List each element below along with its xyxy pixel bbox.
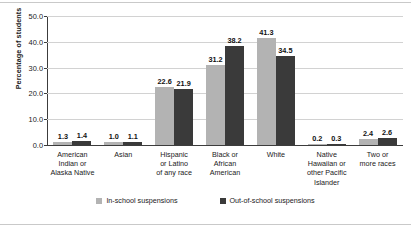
bar-pair: 2.42.6 <box>352 16 403 145</box>
x-axis-category-label: Hispanicor Latinoof any race <box>149 150 200 178</box>
category-label-line: Hispanic <box>149 150 200 159</box>
bar-pair: 1.31.4 <box>47 16 98 145</box>
bar-chart-figure: Percentage of students 0.010.020.030.040… <box>0 0 411 227</box>
bar-pair: 41.334.5 <box>250 16 301 145</box>
y-axis-tick-label: 40.0 <box>29 37 43 46</box>
x-axis-category-label: White <box>250 150 301 159</box>
bar[interactable]: 34.5 <box>276 56 295 145</box>
bar[interactable]: 31.2 <box>206 65 225 145</box>
x-axis-category-label: NativeHawaiian orother PacificIslander <box>301 150 352 187</box>
category-label-line: more races <box>352 159 403 168</box>
bar-value-label: 22.6 <box>158 77 172 86</box>
legend-label: Out-of-school suspensions <box>230 196 315 205</box>
bar[interactable]: 2.6 <box>378 138 397 145</box>
x-axis-line <box>47 145 403 146</box>
bar[interactable]: 21.9 <box>174 89 193 146</box>
bar-pair: 1.01.1 <box>98 16 149 145</box>
page-rule-top <box>0 2 411 3</box>
category-label-line: Black or <box>200 150 251 159</box>
category-label-line: other Pacific <box>301 168 352 177</box>
bar[interactable]: 1.1 <box>123 142 142 145</box>
x-axis-category-label: Black orAfricanAmerican <box>200 150 251 178</box>
bar-value-label: 2.6 <box>382 128 392 137</box>
category-label-line: Alaska Native <box>47 168 98 177</box>
bar-value-label: 1.1 <box>128 132 138 141</box>
bar[interactable]: 2.4 <box>359 139 378 145</box>
bar-value-label: 1.0 <box>109 132 119 141</box>
category-label-line: or Latino <box>149 159 200 168</box>
category-label-line: White <box>250 150 301 159</box>
bar-value-label: 41.3 <box>259 28 273 37</box>
bar-value-label: 2.4 <box>363 129 373 138</box>
category-label-line: American <box>47 150 98 159</box>
bar-value-label: 34.5 <box>278 46 292 55</box>
bar-value-label: 1.3 <box>58 132 68 141</box>
category-label-line: Two or <box>352 150 403 159</box>
x-axis-category-label: Asian <box>98 150 149 159</box>
bar[interactable]: 1.3 <box>53 142 72 145</box>
bar[interactable]: 0.3 <box>327 144 346 145</box>
category-label-line: Indian or <box>47 159 98 168</box>
plot-area: 0.010.020.030.040.050.0 1.31.41.01.122.6… <box>47 16 403 145</box>
bar-group: 0.20.3 <box>301 16 352 145</box>
bar[interactable]: 41.3 <box>257 38 276 145</box>
bar-group: 1.31.4 <box>47 16 98 145</box>
bar-group: 22.621.9 <box>149 16 200 145</box>
category-label-line: American <box>200 168 251 177</box>
bar-value-label: 0.2 <box>312 134 322 143</box>
chart-legend: In-school suspensionsOut-of-school suspe… <box>0 196 411 205</box>
bar[interactable]: 0.2 <box>308 144 327 145</box>
bar-value-label: 0.3 <box>331 134 341 143</box>
legend-item[interactable]: Out-of-school suspensions <box>220 196 315 205</box>
bar[interactable]: 38.2 <box>225 46 244 145</box>
category-label-line: Hawaiian or <box>301 159 352 168</box>
legend-label: In-school suspensions <box>106 196 177 205</box>
y-axis-tick-mark <box>44 145 47 146</box>
y-axis-title: Percentage of students <box>14 0 23 109</box>
y-axis-tick-label: 20.0 <box>29 89 43 98</box>
x-axis-category-label: Two ormore races <box>352 150 403 168</box>
bar[interactable]: 22.6 <box>155 87 174 145</box>
page-rule-bottom <box>0 224 411 225</box>
bar-pair: 22.621.9 <box>149 16 200 145</box>
bar-group: 1.01.1 <box>98 16 149 145</box>
bar[interactable]: 1.0 <box>104 142 123 145</box>
y-axis-tick-label: 10.0 <box>29 115 43 124</box>
category-label-line: Native <box>301 150 352 159</box>
bar-group: 41.334.5 <box>250 16 301 145</box>
legend-swatch <box>220 198 226 204</box>
bar[interactable]: 1.4 <box>72 141 91 145</box>
legend-item[interactable]: In-school suspensions <box>96 196 177 205</box>
category-label-line: Asian <box>98 150 149 159</box>
legend-swatch <box>96 198 102 204</box>
category-label-line: Islander <box>301 178 352 187</box>
bar-value-label: 1.4 <box>77 131 87 140</box>
bar-group: 2.42.6 <box>352 16 403 145</box>
y-axis-tick-label: 50.0 <box>29 12 43 21</box>
x-axis-category-label: AmericanIndian orAlaska Native <box>47 150 98 178</box>
category-label-line: African <box>200 159 251 168</box>
bar-value-label: 31.2 <box>208 55 222 64</box>
bar-pair: 0.20.3 <box>301 16 352 145</box>
bar-pair: 31.238.2 <box>200 16 251 145</box>
bar-group: 31.238.2 <box>200 16 251 145</box>
y-axis-tick-label: 30.0 <box>29 63 43 72</box>
bar-value-label: 38.2 <box>227 36 241 45</box>
category-label-line: of any race <box>149 168 200 177</box>
bar-value-label: 21.9 <box>177 79 191 88</box>
y-axis-tick-label: 0.0 <box>33 141 43 150</box>
